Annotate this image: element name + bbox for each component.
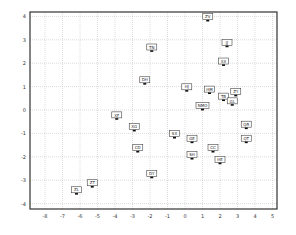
point-label: ZV [205,14,211,19]
point-label: QT [243,136,249,141]
point-label: XG [131,124,137,129]
point-marker [136,151,139,153]
data-point: DH [140,77,150,85]
point-marker [191,158,194,160]
point-label: JJ [225,40,228,45]
x-tick-label: -2 [148,213,153,219]
data-point: ZV [203,14,213,22]
y-axis-ticks: -4-3-2-101234 [21,13,26,206]
point-marker [212,151,215,153]
point-marker [75,193,78,195]
x-tick-label: 5 [271,213,274,219]
data-point: HJ [182,84,192,92]
scatter-chart: -8-7-6-5-4-3-2-1012345 -4-3-2-101234 ZVJ… [0,0,296,235]
point-label: CC [210,145,216,150]
x-tick-label: 2 [218,213,221,219]
plot-frame [30,12,277,209]
point-marker [245,128,248,130]
y-tick-label: 0 [23,107,26,113]
data-point: XF [112,112,122,120]
y-tick-label: -3 [21,177,26,183]
point-marker [150,177,153,179]
data-point: ZY [231,88,241,96]
y-tick-label: -2 [21,154,26,160]
x-tick-label: 4 [253,213,256,219]
x-tick-label: -3 [130,213,135,219]
point-marker [206,20,209,22]
x-tick-label: 0 [183,213,186,219]
data-point: ZT [87,180,97,188]
data-point: GE [187,135,197,143]
x-tick-label: -7 [60,213,65,219]
x-tick-label: -5 [95,213,100,219]
point-marker [219,163,222,165]
x-tick-label: 3 [236,213,239,219]
point-label: XF [114,113,120,118]
point-label: GL [230,99,236,104]
data-point: ZL [72,187,82,195]
point-label: HE [217,157,223,162]
point-label: ZY [233,89,239,94]
y-tick-label: 1 [23,84,26,90]
point-label: ZL [74,187,80,192]
point-label: SX [172,131,178,136]
data-point: XG [129,124,139,132]
point-label: GE [189,136,195,141]
data-point: SX [170,131,180,139]
point-label: TB [220,94,226,99]
data-point: TN [147,44,157,52]
data-point: CC [208,145,218,153]
data-point: HE [215,156,225,164]
point-label: TN [148,45,154,50]
x-tick-label: -6 [78,213,83,219]
y-tick-label: 3 [23,37,26,43]
point-marker [222,99,225,101]
point-label: CD [135,145,141,150]
point-marker [185,90,188,92]
point-marker [226,46,229,48]
data-point: JJ [222,39,232,47]
point-label: ZT [90,180,96,185]
point-label: XX [221,59,227,64]
point-marker [143,83,146,85]
x-tick-label: 1 [201,213,204,219]
x-tick-label: -4 [113,213,118,219]
data-point: HM [205,86,215,94]
point-marker [234,95,237,97]
data-point: DY [147,170,157,178]
point-marker [231,104,234,106]
point-label: SH [189,152,195,157]
x-tick-label: -8 [43,213,48,219]
point-marker [173,137,176,139]
point-label: HJ [185,84,189,89]
data-point: SH [187,152,197,160]
point-label: DY [149,171,155,176]
point-marker [191,142,194,144]
grid-lines [30,12,277,209]
point-label: NMO [198,103,208,108]
point-label: DH [142,77,148,82]
data-point: QR [241,121,251,129]
data-point: NMO [196,103,209,111]
point-marker [133,130,136,132]
y-tick-label: -1 [21,130,26,136]
point-marker [222,64,225,66]
point-marker [201,109,204,111]
y-tick-label: 2 [23,60,26,66]
data-point: GL [227,98,237,106]
data-point: CD [133,145,143,153]
point-label: QR [243,122,249,127]
y-tick-label: 4 [23,13,26,19]
x-axis-ticks: -8-7-6-5-4-3-2-1012345 [43,213,275,219]
point-marker [91,186,94,188]
x-tick-label: -1 [165,213,170,219]
point-marker [115,118,118,120]
point-label: HM [206,87,213,92]
y-tick-label: -4 [21,201,26,207]
point-marker [150,50,153,52]
data-point: QT [241,135,251,143]
point-marker [245,142,248,144]
point-marker [208,92,211,94]
data-points: ZVJJXXTNDHHJHMZYTBGLNMOXFXGSXQRQTGECCCDS… [72,14,252,195]
